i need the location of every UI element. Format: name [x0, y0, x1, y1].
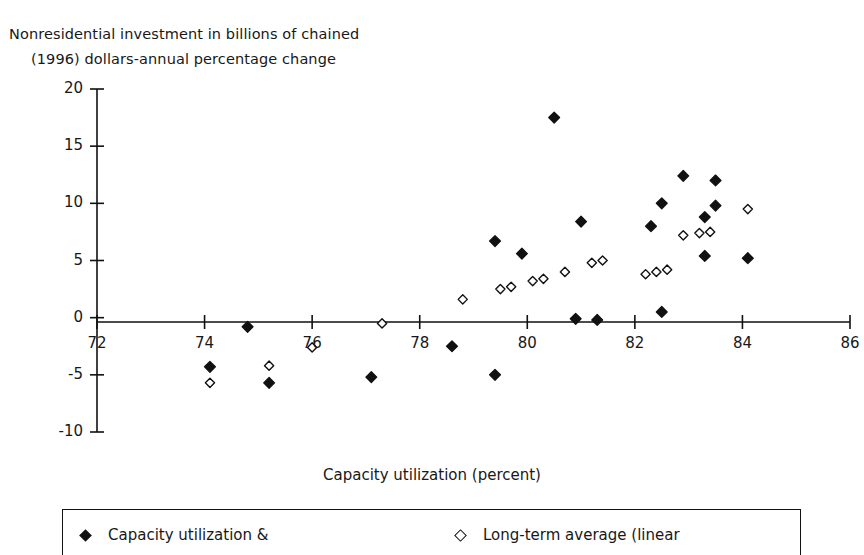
x-tick-label: 72 — [75, 334, 119, 352]
data-point-filled — [517, 248, 528, 259]
data-point-open — [652, 267, 661, 276]
data-point-open — [695, 228, 704, 237]
data-point-open — [663, 265, 672, 274]
filled-diamond-icon — [79, 529, 92, 542]
legend-entry-long-term-average: Long-term average (linear — [456, 526, 680, 544]
x-tick-label: 82 — [613, 334, 657, 352]
x-tick-label: 80 — [505, 334, 549, 352]
data-point-open — [265, 361, 274, 370]
data-point-open — [496, 284, 505, 293]
data-point-open — [377, 319, 386, 328]
data-point-filled — [710, 175, 721, 186]
data-point-open — [598, 256, 607, 265]
data-point-open — [587, 258, 596, 267]
x-tick-label: 86 — [828, 334, 864, 352]
data-point-filled — [264, 377, 275, 388]
data-point-filled — [366, 372, 377, 383]
data-point-open — [507, 282, 516, 291]
data-point-open — [458, 295, 467, 304]
legend-label-long-term-average: Long-term average (linear — [483, 526, 680, 544]
data-point-filled — [549, 112, 560, 123]
data-point-filled — [646, 221, 657, 232]
data-point-filled — [490, 369, 501, 380]
data-point-open — [528, 276, 537, 285]
data-point-filled — [447, 341, 458, 352]
data-point-filled — [205, 361, 216, 372]
data-point-filled — [242, 321, 253, 332]
chart-legend: Capacity utilization & Long-term average… — [62, 509, 801, 555]
data-point-filled — [576, 216, 587, 227]
data-point-filled — [742, 253, 753, 264]
x-tick-label: 76 — [290, 334, 334, 352]
data-point-open — [706, 227, 715, 236]
x-tick-label: 74 — [183, 334, 227, 352]
data-point-open — [641, 270, 650, 279]
y-tick-label: -5 — [43, 365, 83, 383]
y-tick-label: 15 — [43, 136, 83, 154]
x-axis-title: Capacity utilization (percent) — [0, 466, 864, 484]
series-capacity-utilization-points — [205, 112, 754, 388]
data-point-filled — [656, 307, 667, 318]
data-point-filled — [699, 212, 710, 223]
x-tick-label: 84 — [720, 334, 764, 352]
data-point-open — [743, 204, 752, 213]
y-tick-label: 20 — [43, 79, 83, 97]
data-point-filled — [592, 315, 603, 326]
legend-label-capacity-utilization: Capacity utilization & — [108, 526, 268, 544]
y-tick-label: -10 — [43, 422, 83, 440]
data-point-open — [205, 378, 214, 387]
y-tick-label: 10 — [43, 193, 83, 211]
data-point-filled — [678, 170, 689, 181]
data-point-open — [679, 231, 688, 240]
axes-group — [90, 89, 850, 432]
data-point-filled — [490, 236, 501, 247]
data-point-filled — [699, 251, 710, 262]
data-point-open — [539, 274, 548, 283]
x-tick-label: 78 — [398, 334, 442, 352]
y-tick-label: 5 — [43, 251, 83, 269]
open-diamond-icon — [454, 529, 467, 542]
series-long-term-average-points — [205, 204, 752, 387]
data-point-open — [560, 267, 569, 276]
scatter-plot-canvas — [0, 0, 864, 470]
y-tick-label: 0 — [43, 308, 83, 326]
legend-entry-capacity-utilization: Capacity utilization & — [81, 526, 268, 544]
data-point-filled — [656, 198, 667, 209]
data-point-filled — [710, 200, 721, 211]
